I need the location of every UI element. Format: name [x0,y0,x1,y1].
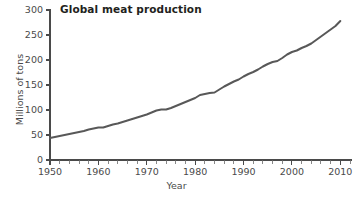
x-axis-tick-label: 1950 [38,166,62,177]
data-series-group [50,21,340,138]
y-axis-tick-label: 100 [25,104,43,115]
plot-area: 050100150200250300 195019601970198019902… [0,0,353,201]
y-axis: 050100150200250300 [25,4,50,165]
x-axis-tick-label: 1980 [183,166,207,177]
x-axis-tick-label: 1970 [135,166,159,177]
x-axis-tick-label: 2000 [280,166,304,177]
x-axis-tick-label: 1960 [86,166,110,177]
y-axis-tick-label: 150 [25,79,43,90]
y-axis-tick-label: 300 [25,4,43,15]
x-axis-tick-label: 2010 [328,166,352,177]
data-series-line [50,21,340,138]
y-axis-tick-label: 0 [37,154,43,165]
y-axis-tick-label: 50 [31,129,43,140]
chart-container: Global meat production Millions of tons … [0,0,353,201]
y-axis-tick-label: 200 [25,54,43,65]
x-axis: 1950196019701980199020002010 [38,160,353,177]
y-axis-tick-label: 250 [25,29,43,40]
x-axis-tick-label: 1990 [231,166,255,177]
